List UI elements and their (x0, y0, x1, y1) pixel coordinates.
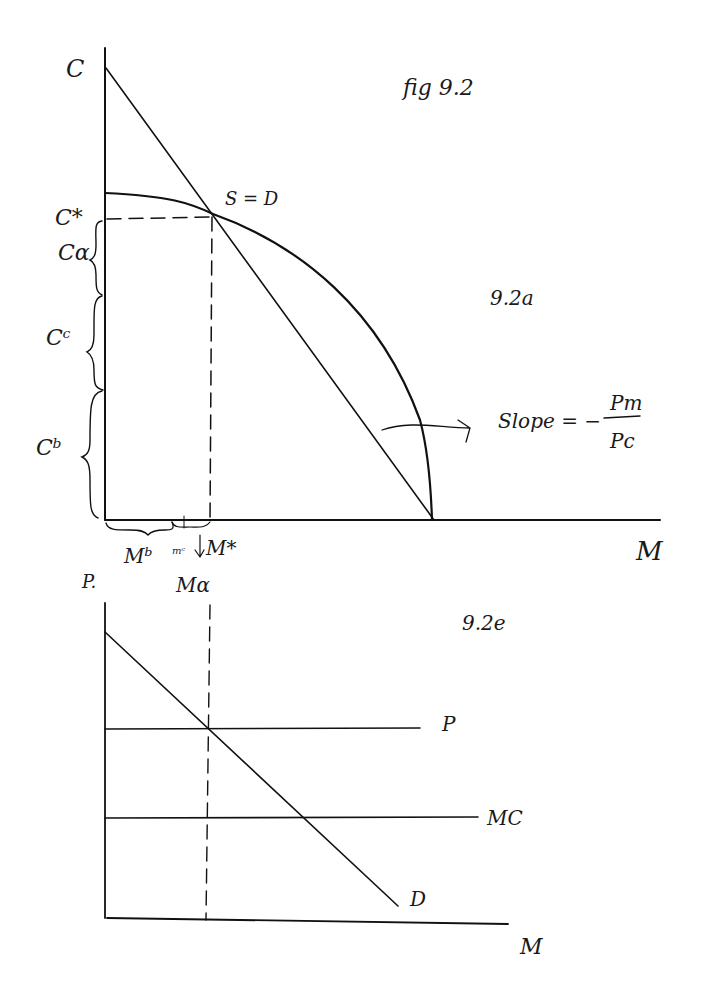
mc-line-label: MC (486, 806, 523, 830)
m-star-dashed (210, 217, 212, 520)
c-b-brace (82, 391, 102, 518)
m-axis-e (107, 918, 508, 924)
slope-arrow (382, 420, 470, 442)
slope-fraction-bar (604, 416, 640, 418)
m-alpha-arrow (195, 535, 204, 557)
slope-denominator: Pc (609, 429, 635, 453)
m-c-label: mᶜ (172, 545, 185, 556)
mc-line (105, 817, 478, 818)
m-b-label: Mᵇ (123, 544, 152, 568)
m-b-brace (106, 522, 173, 535)
c-b-label: Cᵇ (36, 435, 62, 460)
demand-label: D (409, 887, 426, 911)
slope-numerator: Pm (609, 391, 642, 415)
panel-a-label: 9.2a (490, 286, 534, 310)
equilibrium-label: S = D (225, 188, 279, 209)
price-line-e (105, 728, 420, 729)
c-star-label: C* (55, 205, 83, 230)
m-star-dashed-e (206, 605, 210, 920)
figure-title: fig 9.2 (401, 75, 474, 100)
c-axis-label: C (66, 55, 84, 83)
figure-canvas: fig 9.2 C M S = D C* Cα Cᶜ Cᵇ Mᵇ mᶜ M* M… (0, 0, 704, 998)
price-line-label: P (441, 712, 456, 736)
demand-line (105, 632, 398, 906)
c-star-dashed (107, 217, 212, 219)
slope-text: Slope = − (498, 409, 601, 433)
ppf-curve (105, 193, 432, 520)
m-axis-label: M (635, 536, 664, 566)
c-c-label: Cᶜ (46, 325, 71, 350)
c-alpha-brace (90, 221, 102, 295)
c-alpha-label: Cα (58, 240, 90, 265)
p-axis-label: P. (81, 571, 96, 592)
c-c-brace (87, 296, 103, 390)
price-line (106, 68, 434, 520)
m-axis-e-label: M (519, 934, 543, 959)
m-alpha-label: Mα (175, 573, 210, 597)
panel-e: P. M 9.2e P MC D (81, 571, 543, 959)
panel-e-label: 9.2e (462, 611, 506, 635)
panel-a: C M S = D C* Cα Cᶜ Cᵇ Mᵇ mᶜ M* Mα 9.2a S… (36, 48, 664, 597)
m-c-brace (172, 522, 210, 527)
m-star-label: M* (205, 536, 236, 560)
